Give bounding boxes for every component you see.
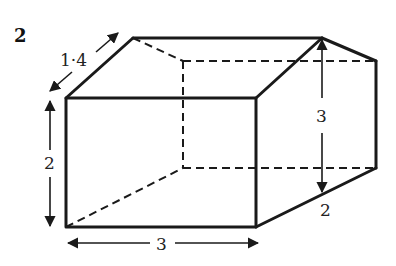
edge-right-top — [322, 38, 376, 61]
edge-right-bottom-slant — [256, 168, 376, 227]
hidden-edge-top-left-back — [133, 38, 183, 61]
label-slant-depth: 1·4 — [60, 50, 87, 70]
hidden-edges — [66, 38, 376, 227]
dimensions: 1·4 2 3 3 2 — [44, 33, 331, 254]
visible-edges — [66, 38, 376, 227]
label-right-bottom-slant: 2 — [320, 200, 331, 220]
dim-arrow-slant-down — [50, 72, 72, 91]
question-number: 2 — [14, 25, 27, 46]
prism-diagram: 2 1·4 2 3 3 — [0, 0, 396, 266]
label-bottom-width: 3 — [156, 234, 167, 254]
hidden-edge-bottom-left-back — [66, 168, 183, 227]
label-left-height: 2 — [44, 153, 55, 173]
front-face — [66, 98, 256, 227]
label-right-height: 3 — [316, 106, 327, 126]
dim-arrow-slant-up — [96, 33, 118, 52]
edge-top-right-slant — [256, 38, 322, 98]
